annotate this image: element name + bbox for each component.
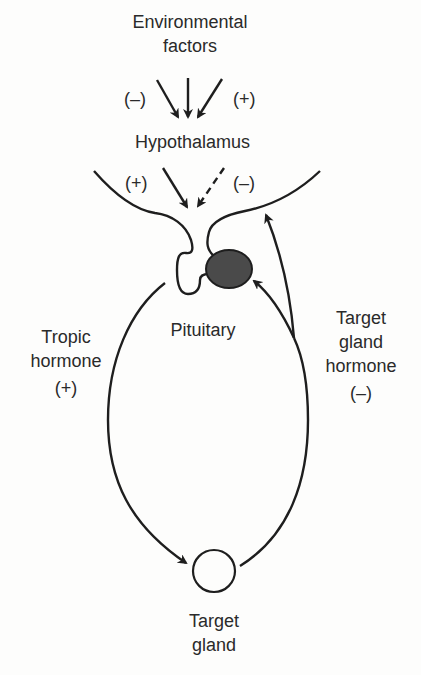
environmental-factors-label: Environmental factors	[120, 10, 260, 58]
feedback-arrow-to-hypothalamus	[266, 215, 294, 338]
pituitary-label: Pituitary	[158, 318, 248, 342]
env-arrows	[157, 78, 222, 117]
hypothalamus-stimulate-sign: (+)	[125, 172, 148, 194]
pituitary-gland-shape	[206, 250, 252, 288]
hypothalamus-inhibit-sign: (–)	[233, 172, 255, 194]
gland-line: gland	[174, 633, 254, 657]
inhibitory-dashed-arrow	[198, 168, 224, 206]
hypothalamus-label: Hypothalamus	[120, 130, 265, 154]
stimulatory-arrow	[163, 168, 187, 207]
target-gland-shape	[193, 550, 235, 592]
hypothalamus-outline-left	[94, 171, 209, 294]
tropic-hormone-label: Tropic hormone (+)	[30, 325, 102, 400]
target-gland-hormone-feedback	[240, 338, 308, 566]
env-arrow-left	[157, 80, 178, 117]
environmental-line: Environmental	[120, 10, 260, 34]
target-gland-label: Target gland	[174, 609, 254, 657]
gland-line: gland	[318, 330, 404, 354]
tropic-sign: (+)	[30, 376, 102, 400]
env-inhibit-sign: (–)	[124, 88, 146, 110]
env-stimulate-sign: (+)	[233, 88, 256, 110]
target-line: Target	[174, 609, 254, 633]
hypothalamus-arrows	[163, 168, 224, 207]
hypothalamus-outline-right	[207, 171, 320, 256]
hormone-line: hormone	[30, 349, 102, 373]
feedback-sign: (–)	[318, 381, 404, 405]
target-gland-hormone-label: Target gland hormone (–)	[318, 306, 404, 405]
target-line: Target	[318, 306, 404, 330]
env-arrow-right	[198, 79, 222, 117]
factors-line: factors	[120, 34, 260, 58]
hormone-line: hormone	[318, 354, 404, 378]
tropic-line: Tropic	[30, 325, 102, 349]
